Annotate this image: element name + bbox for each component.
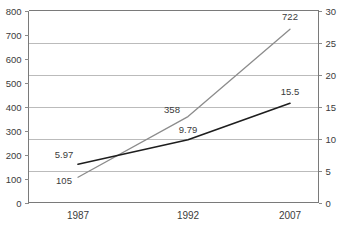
left-axis-tick-label: 800 [6,6,22,17]
right-axis-tick-label: 5 [326,166,331,177]
right-axis-tick-label: 10 [326,134,337,145]
left-axis-tick-label: 0 [16,198,21,209]
right-axis-tick-label: 30 [326,6,337,17]
chart-canvas: 0100200300400500600700800 051015202530 1… [0,0,353,225]
right-axis-tick-label: 0 [326,198,331,209]
right-axis-tick-label: 15 [326,102,337,113]
x-axis-category-label: 2007 [279,210,302,221]
right-axis-tick-label: 20 [326,70,337,81]
left-axis-tick-label: 100 [6,174,22,185]
data-point-label: 9.79 [179,124,198,135]
x-axis-category-label: 1992 [177,210,200,221]
line-chart: 0100200300400500600700800 051015202530 1… [0,0,353,225]
data-point-label: 105 [56,175,72,186]
data-point-label: 722 [282,11,298,22]
left-axis-tick-label: 200 [6,150,22,161]
right-axis-tick-label: 25 [326,38,337,49]
left-axis-tick-label: 500 [6,78,22,89]
left-axis-tick-label: 600 [6,54,22,65]
left-axis-tick-label: 700 [6,30,22,41]
left-axis-tick-label: 300 [6,126,22,137]
data-point-label: 5.97 [55,149,74,160]
left-axis-tick-label: 400 [6,102,22,113]
data-point-label: 15.5 [281,86,300,97]
x-axis-category-label: 1987 [67,210,90,221]
left-axis-tick-labels: 0100200300400500600700800 [6,6,22,209]
data-point-label: 358 [164,104,180,115]
